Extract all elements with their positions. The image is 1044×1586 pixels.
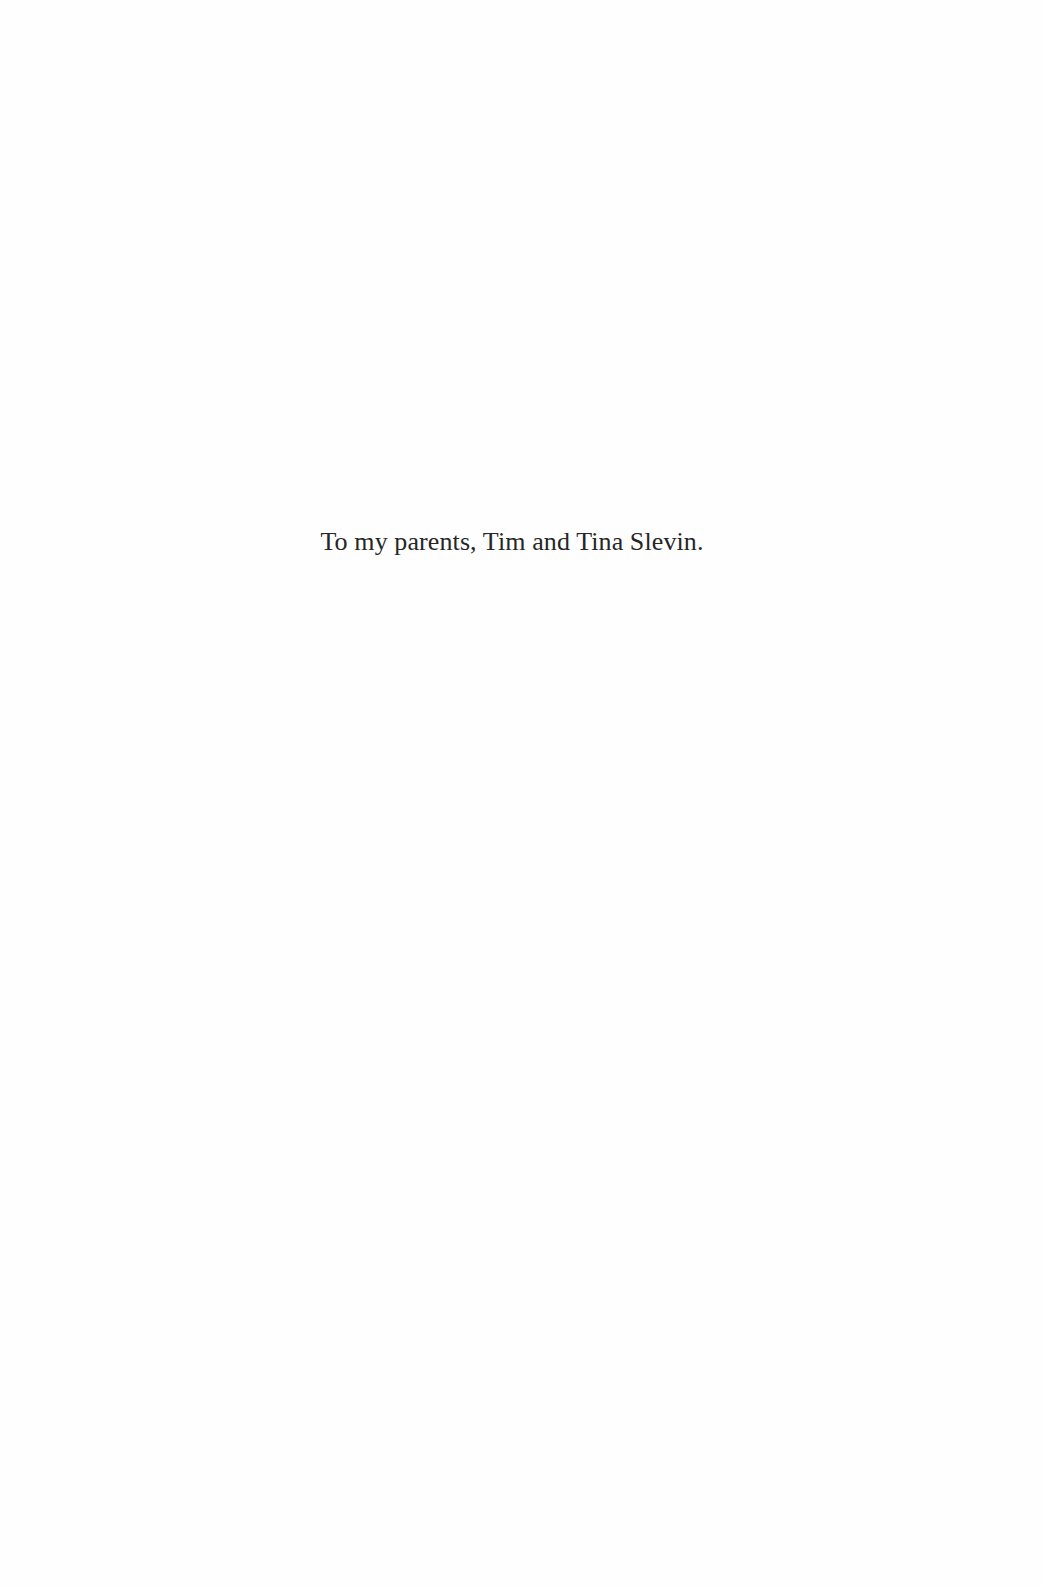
dedication-text: To my parents, Tim and Tina Slevin. — [0, 524, 1024, 560]
book-page: To my parents, Tim and Tina Slevin. — [0, 0, 1044, 1586]
